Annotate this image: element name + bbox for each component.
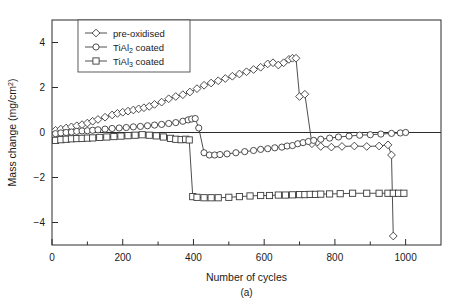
data-point-circle bbox=[173, 120, 179, 126]
data-point-square bbox=[215, 195, 221, 201]
data-point-square bbox=[90, 135, 96, 141]
data-point-square bbox=[364, 190, 370, 196]
data-point-square bbox=[327, 191, 333, 197]
data-point-square bbox=[111, 133, 117, 139]
data-point-circle bbox=[224, 151, 230, 157]
data-point-square bbox=[146, 132, 152, 138]
y-tick-label: −4 bbox=[34, 217, 46, 228]
data-point-square bbox=[97, 134, 103, 140]
data-point-diamond bbox=[101, 113, 109, 121]
data-point-diamond bbox=[158, 98, 166, 106]
data-point-square bbox=[247, 193, 253, 199]
data-point-diamond bbox=[389, 232, 397, 240]
data-point-diamond bbox=[327, 143, 335, 151]
data-point-circle bbox=[318, 136, 324, 142]
data-point-circle bbox=[102, 126, 108, 132]
data-point-square bbox=[376, 190, 382, 196]
data-point-square bbox=[289, 192, 295, 198]
data-point-square bbox=[318, 191, 324, 197]
y-tick-label: 4 bbox=[39, 37, 45, 48]
legend-label-3: TiAl3 coated bbox=[113, 56, 164, 69]
data-point-diamond bbox=[257, 63, 265, 71]
data-point-circle bbox=[192, 115, 198, 121]
series-1-diamond bbox=[52, 54, 397, 240]
x-tick-label: 600 bbox=[256, 252, 273, 263]
data-point-square bbox=[139, 132, 145, 138]
data-point-square bbox=[132, 132, 138, 138]
y-tick-label: 0 bbox=[39, 127, 45, 138]
data-point-circle bbox=[311, 137, 317, 143]
legend-marker-circle bbox=[93, 44, 99, 50]
legend: pre-oxidisedTiAl2 coatedTiAl3 coated bbox=[85, 28, 165, 69]
data-point-square bbox=[275, 192, 281, 198]
data-point-circle bbox=[272, 145, 278, 151]
data-point-diamond bbox=[375, 142, 383, 150]
data-point-square bbox=[118, 133, 124, 139]
data-point-square bbox=[226, 194, 232, 200]
data-point-diamond bbox=[221, 75, 229, 83]
x-tick-label: 800 bbox=[327, 252, 344, 263]
data-point-diamond bbox=[207, 79, 215, 87]
data-point-diamond bbox=[338, 143, 346, 151]
x-tick-label: 1000 bbox=[395, 252, 418, 263]
data-point-square bbox=[186, 137, 192, 143]
data-point-circle bbox=[388, 130, 394, 136]
data-point-diamond bbox=[193, 85, 201, 93]
data-point-diamond bbox=[200, 81, 208, 89]
data-point-square bbox=[337, 191, 343, 197]
data-point-circle bbox=[95, 127, 101, 133]
data-point-square bbox=[104, 134, 110, 140]
data-point-square bbox=[236, 194, 242, 200]
data-point-circle bbox=[327, 135, 333, 141]
data-point-circle bbox=[109, 125, 115, 131]
data-point-diamond bbox=[350, 142, 358, 150]
series-line-3 bbox=[56, 135, 404, 198]
data-point-square bbox=[153, 133, 159, 139]
y-axis-title: Mass change (mg/cm2) bbox=[6, 79, 18, 187]
data-point-circle bbox=[144, 123, 150, 129]
data-point-circle bbox=[258, 146, 264, 152]
data-point-square bbox=[401, 190, 407, 196]
data-point-square bbox=[258, 192, 264, 198]
data-point-circle bbox=[346, 133, 352, 139]
data-point-diamond bbox=[384, 141, 392, 149]
x-tick-label: 400 bbox=[185, 252, 202, 263]
panel-label: (a) bbox=[240, 287, 252, 298]
data-point-diamond bbox=[214, 77, 222, 85]
x-tick-label: 0 bbox=[49, 252, 55, 263]
data-point-square bbox=[266, 192, 272, 198]
data-point-circle bbox=[116, 125, 122, 131]
data-point-circle bbox=[335, 134, 341, 140]
data-point-circle bbox=[166, 120, 172, 126]
y-tick-label: 2 bbox=[39, 82, 45, 93]
legend-marker-square bbox=[93, 58, 99, 64]
mass-change-vs-cycles-chart: 02004006008001000420−2−4Number of cycles… bbox=[0, 0, 457, 302]
legend-label-1: pre-oxidised bbox=[113, 28, 165, 39]
y-tick-label: −2 bbox=[34, 172, 46, 183]
data-point-circle bbox=[130, 124, 136, 130]
x-tick-label: 200 bbox=[114, 252, 131, 263]
data-point-square bbox=[282, 192, 288, 198]
data-point-circle bbox=[242, 149, 248, 155]
data-point-diamond bbox=[172, 93, 180, 101]
data-point-circle bbox=[403, 129, 409, 135]
data-point-diamond bbox=[388, 151, 396, 159]
data-point-diamond bbox=[236, 70, 244, 78]
data-point-circle bbox=[250, 147, 256, 153]
data-point-circle bbox=[233, 150, 239, 156]
data-point-circle bbox=[265, 146, 271, 152]
data-point-diamond bbox=[243, 68, 251, 76]
data-point-circle bbox=[137, 123, 143, 129]
data-point-square bbox=[349, 190, 355, 196]
data-point-square bbox=[125, 133, 131, 139]
data-point-diamond bbox=[165, 95, 173, 103]
data-point-diamond bbox=[363, 143, 371, 151]
data-point-circle bbox=[123, 124, 129, 130]
data-point-circle bbox=[217, 151, 223, 157]
data-point-diamond bbox=[250, 66, 258, 74]
legend-label-2: TiAl2 coated bbox=[113, 42, 164, 55]
x-axis-title: Number of cycles bbox=[206, 271, 287, 283]
data-point-circle bbox=[378, 131, 384, 137]
data-point-circle bbox=[196, 125, 202, 131]
series-3-square bbox=[52, 132, 407, 201]
